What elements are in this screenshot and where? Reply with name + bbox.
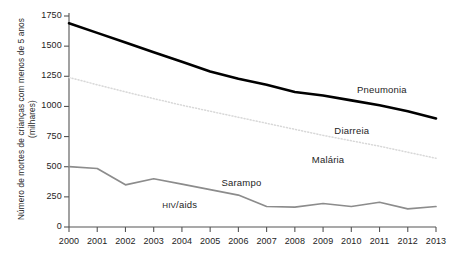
y-tick-label: 250 — [28, 191, 62, 201]
x-tick-label: 2011 — [365, 236, 395, 246]
x-tick-label: 2003 — [139, 236, 169, 246]
x-tick-label: 2006 — [223, 236, 253, 246]
series-label-hivaids: HIV/aids — [162, 199, 197, 210]
x-tick-label: 2007 — [252, 236, 282, 246]
series-line-pneumonia — [69, 23, 436, 118]
x-tick-label: 2005 — [195, 236, 225, 246]
x-tick-label: 2009 — [308, 236, 338, 246]
x-tick-label: 2000 — [54, 236, 84, 246]
series-label-sarampo: Sarampo — [221, 177, 261, 188]
x-tick-label: 2004 — [167, 236, 197, 246]
x-tick-label: 2010 — [336, 236, 366, 246]
series-label-pneumonia: Pneumonia — [357, 84, 407, 95]
y-tick-label: 750 — [28, 131, 62, 141]
y-tick-label: 1750 — [28, 10, 62, 20]
y-tick-label: 1000 — [28, 100, 62, 110]
x-tick-label: 2001 — [82, 236, 112, 246]
x-tick-label: 2008 — [280, 236, 310, 246]
y-tick-label: 500 — [28, 161, 62, 171]
x-tick-label: 2002 — [110, 236, 140, 246]
series-label-diarreia: Diarreia — [334, 125, 369, 136]
y-tick-label: 0 — [28, 221, 62, 231]
x-tick-label: 2012 — [393, 236, 423, 246]
x-tick-label: 2013 — [421, 236, 451, 246]
hivaids-label-tail: /aids — [176, 199, 197, 210]
y-tick-label: 1500 — [28, 40, 62, 50]
series-label-malaria: Malária — [312, 154, 345, 165]
y-tick-label: 1250 — [28, 70, 62, 80]
hivaids-label-head: HIV — [162, 201, 176, 210]
